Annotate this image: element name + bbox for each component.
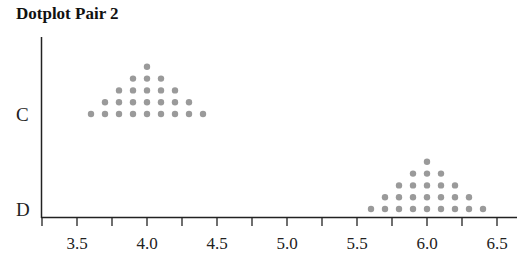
x-tick-label: 6.0 (416, 234, 437, 253)
dot-d (382, 206, 388, 212)
dot-c (116, 87, 122, 93)
dot-c (144, 75, 150, 81)
dot-c (102, 111, 108, 117)
dot-d (438, 194, 444, 200)
dot-d (466, 206, 472, 212)
dot-d (424, 194, 430, 200)
dot-c (130, 111, 136, 117)
dot-d (424, 159, 430, 165)
dot-d (410, 182, 416, 188)
dot-c (158, 99, 164, 105)
dot-d (438, 182, 444, 188)
dot-c (88, 111, 94, 117)
x-tick-label: 6.5 (486, 234, 507, 253)
x-axis-tick-labels: 3.54.04.55.05.56.06.5 (66, 234, 507, 253)
dot-d (452, 194, 458, 200)
dot-d (368, 206, 374, 212)
dot-d (410, 194, 416, 200)
dot-d (424, 170, 430, 176)
x-tick-label: 4.0 (136, 234, 157, 253)
dot-c (172, 99, 178, 105)
dot-d (438, 170, 444, 176)
dot-d (410, 206, 416, 212)
dot-c (102, 99, 108, 105)
dot-d (396, 194, 402, 200)
dot-d (396, 206, 402, 212)
dot-c (158, 87, 164, 93)
dot-c (158, 111, 164, 117)
dot-d (438, 206, 444, 212)
dot-c (172, 111, 178, 117)
dot-d (452, 206, 458, 212)
dots (88, 64, 486, 213)
dot-c (144, 99, 150, 105)
x-tick-label: 4.5 (206, 234, 227, 253)
dot-d (410, 170, 416, 176)
dot-c (130, 87, 136, 93)
category-label-d: D (16, 199, 30, 220)
dot-c (158, 75, 164, 81)
x-tick-label: 5.5 (346, 234, 367, 253)
dot-c (116, 99, 122, 105)
dot-c (172, 87, 178, 93)
x-tick-label: 3.5 (66, 234, 87, 253)
dot-c (144, 111, 150, 117)
dot-d (452, 182, 458, 188)
dot-d (466, 194, 472, 200)
dot-d (424, 182, 430, 188)
dot-d (382, 194, 388, 200)
dot-d (424, 206, 430, 212)
x-tick-label: 5.0 (276, 234, 297, 253)
dot-c (130, 75, 136, 81)
category-label-c: C (16, 104, 29, 125)
dot-c (186, 99, 192, 105)
dot-c (144, 64, 150, 70)
x-axis-ticks (42, 218, 497, 226)
dot-d (396, 182, 402, 188)
dotplot-chart: 3.54.04.55.05.56.06.5 CD (0, 0, 527, 254)
dot-c (116, 111, 122, 117)
dot-d (480, 206, 486, 212)
dot-c (186, 111, 192, 117)
category-labels: CD (16, 104, 30, 220)
dot-c (144, 87, 150, 93)
dot-c (200, 111, 206, 117)
dot-c (130, 99, 136, 105)
